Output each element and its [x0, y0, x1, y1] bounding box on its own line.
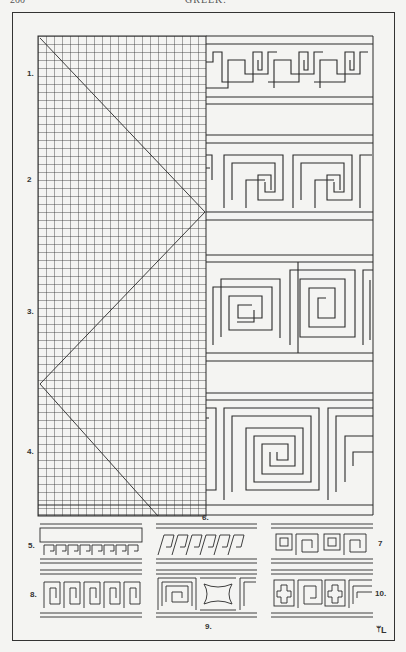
figure-label-9: 9.	[205, 622, 212, 631]
figure-label-6: 6.	[202, 513, 209, 522]
artist-monogram: ᛘL	[376, 625, 387, 635]
meander-band-2	[206, 155, 372, 208]
ornament-plate	[0, 0, 406, 652]
figure-label-1: 1.	[27, 69, 34, 78]
meander-band-4	[206, 408, 373, 500]
meander-band-1	[206, 52, 368, 88]
small-borders	[40, 524, 373, 617]
figure-label-10: 10.	[375, 589, 386, 598]
figure-label-8: 8.	[30, 590, 37, 599]
figure-label-4: 4.	[27, 447, 34, 456]
figure-label-2: 2	[27, 175, 31, 184]
construction-grid	[38, 36, 206, 516]
meander-band-3	[213, 262, 373, 353]
figure-label-3: 3.	[27, 307, 34, 316]
figure-label-5: 5.	[28, 541, 35, 550]
figure-label-7: 7	[378, 539, 382, 548]
